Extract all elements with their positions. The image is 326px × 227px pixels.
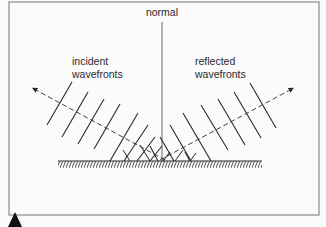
normal-label: normal [146, 6, 178, 18]
mirror-surface [58, 161, 262, 168]
figure-frame [9, 2, 319, 215]
reflected-label-line2: wavefronts [194, 68, 246, 80]
reflected-ray [160, 90, 290, 160]
triangle-marker-icon [8, 212, 22, 227]
incident-label-line1: incident [72, 55, 108, 67]
incident-label-line2: wavefronts [71, 68, 123, 80]
reflected-wavefronts [150, 83, 276, 161]
reflected-label-line1: reflected [195, 55, 235, 67]
reflection-diagram: normal incident wavefronts reflected wav… [0, 0, 326, 227]
